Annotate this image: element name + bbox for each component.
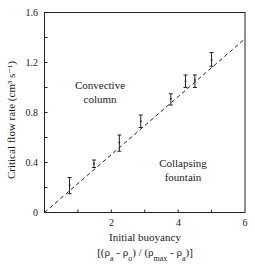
error-bar-point [68,178,72,194]
y-tick-label: 0 [33,207,38,218]
regime-boundary-line [45,39,246,213]
y-tick-label: 1.2 [26,57,39,68]
chart: 0 0.4 0.8 1.2 1.6 2 4 6 Critical flow ra… [0,0,255,269]
x-axis-subtitle: [(ρa - ρo) / (ρmax - ρa)] [97,246,193,263]
x-tick-label: 6 [243,217,248,228]
svg-text:column: column [84,93,117,105]
y-axis-title: Critical flow rate (cm³ s⁻¹) [5,61,18,179]
error-bar-point [92,160,96,168]
x-axis-tick-labels: 2 4 6 [109,217,248,228]
error-bar-point [169,94,173,105]
error-bar-point [184,75,188,88]
region-label-convective: Convective column [75,79,125,105]
error-bar-point [139,115,143,128]
error-bar-point [193,75,197,88]
svg-text:Collapsing: Collapsing [159,157,207,169]
y-tick-label: 1.6 [26,7,39,18]
x-axis-title: Initial buoyancy [109,231,181,243]
x-tick-label: 2 [109,217,114,228]
svg-text:Convective: Convective [75,79,125,91]
region-label-collapsing: Collapsing fountain [159,157,207,183]
y-axis-tick-labels: 0 0.4 0.8 1.2 1.6 [26,7,39,218]
error-bar-point [117,135,121,151]
x-tick-label: 4 [176,217,181,228]
y-tick-label: 0.8 [26,107,39,118]
error-bar-point [210,53,214,67]
y-tick-label: 0.4 [26,157,39,168]
svg-text:fountain: fountain [165,171,202,183]
plot-frame [45,13,246,213]
